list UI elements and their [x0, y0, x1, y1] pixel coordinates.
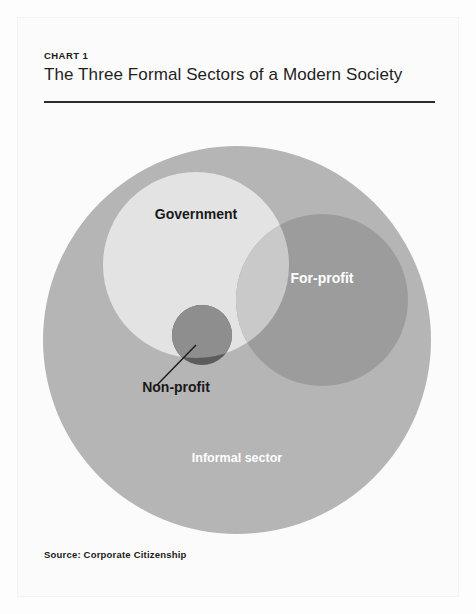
venn-diagram: Government For-profit Non-profit Informa… [0, 0, 476, 614]
label-government: Government [155, 206, 238, 222]
label-for-profit: For-profit [291, 270, 354, 286]
source-note: Source: Corporate Citizenship [44, 549, 187, 560]
chart-page: CHART 1 The Three Formal Sectors of a Mo… [0, 0, 476, 614]
label-non-profit: Non-profit [142, 379, 210, 395]
label-informal-sector: Informal sector [192, 451, 282, 465]
venn-diagram-svg: Government For-profit Non-profit Informa… [0, 0, 476, 614]
